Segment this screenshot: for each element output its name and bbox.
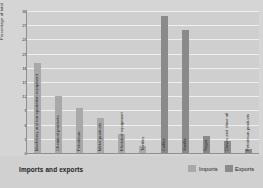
legend-swatch-icon	[188, 165, 196, 172]
x-tick-label: Chemical products	[55, 115, 60, 151]
x-tick-label: Machinery and transportation equipment	[34, 74, 39, 151]
legend-swatch-icon	[225, 165, 233, 172]
plot-area: Percentage of total 036912151821242730 M…	[0, 4, 263, 156]
bar[interactable]	[182, 30, 189, 153]
x-tick-label: Textiles	[140, 137, 145, 151]
bar-slot[interactable]	[154, 11, 175, 153]
x-tick-label: Electrical equipment	[119, 112, 124, 151]
chart-title: Imports and exports	[19, 166, 83, 173]
legend-label: Exports	[235, 166, 254, 172]
x-tick-label: Petroleum products	[245, 114, 250, 151]
bar[interactable]	[161, 16, 168, 153]
x-tick-label: Vanilla	[182, 138, 187, 151]
y-axis-title: Percentage of total	[0, 0, 4, 40]
chart-footer: Imports and exports ImportsExports	[0, 156, 263, 188]
legend-label: Imports	[199, 166, 218, 172]
y-axis-tick-labels: 036912151821242730	[11, 11, 27, 152]
legend-item[interactable]: Exports	[225, 165, 254, 172]
chart-container: Percentage of total 036912151821242730 M…	[0, 0, 263, 188]
x-axis-line	[26, 153, 259, 154]
x-tick-label: Coffee	[161, 138, 166, 151]
bar-slot[interactable]	[132, 11, 153, 153]
legend-item[interactable]: Imports	[188, 165, 217, 172]
x-tick-label: Sugar	[203, 140, 208, 151]
bar-series: Machinery and transportation equipmentCh…	[27, 11, 259, 153]
x-tick-label: Cloves and clove oil	[224, 113, 229, 151]
chart-legend: ImportsExports	[188, 165, 254, 172]
bar-slot[interactable]	[196, 11, 217, 153]
x-tick-label: Metal products	[97, 123, 102, 151]
bar-slot[interactable]	[175, 11, 196, 153]
x-tick-label: Petroleum	[76, 131, 81, 151]
